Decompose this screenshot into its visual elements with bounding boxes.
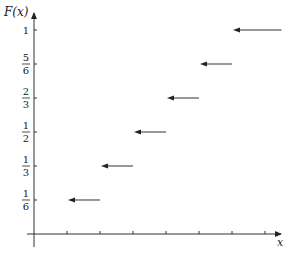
svg-text:3: 3 bbox=[23, 99, 29, 110]
y-tick-label: 16 bbox=[22, 188, 30, 212]
svg-text:5: 5 bbox=[23, 52, 29, 63]
cdf-step-chart: 16131223561 F(x) x bbox=[0, 0, 291, 253]
y-tick-label: 23 bbox=[22, 86, 30, 110]
svg-text:1: 1 bbox=[23, 120, 29, 131]
step-segment bbox=[134, 130, 166, 135]
step-segment bbox=[101, 164, 133, 169]
step-segments bbox=[68, 28, 282, 203]
step-segment bbox=[68, 197, 100, 202]
step-segment bbox=[233, 28, 282, 33]
x-axis-label: x bbox=[277, 236, 284, 249]
svg-text:6: 6 bbox=[23, 201, 29, 212]
svg-text:6: 6 bbox=[23, 65, 29, 76]
svg-text:1: 1 bbox=[23, 154, 29, 165]
svg-text:1: 1 bbox=[23, 25, 29, 36]
axes bbox=[27, 13, 281, 247]
svg-text:1: 1 bbox=[23, 188, 29, 199]
y-axis-label: F(x) bbox=[3, 5, 29, 19]
step-segment bbox=[200, 62, 232, 67]
svg-text:2: 2 bbox=[23, 133, 29, 144]
y-tick-label: 12 bbox=[22, 120, 30, 144]
y-tick-label: 13 bbox=[22, 154, 30, 178]
svg-text:2: 2 bbox=[23, 86, 29, 97]
y-tick-label: 1 bbox=[23, 25, 29, 36]
y-tick-label: 56 bbox=[22, 52, 30, 76]
step-segment bbox=[167, 95, 199, 100]
y-ticks: 16131223561 bbox=[22, 25, 37, 212]
svg-text:3: 3 bbox=[23, 167, 29, 178]
